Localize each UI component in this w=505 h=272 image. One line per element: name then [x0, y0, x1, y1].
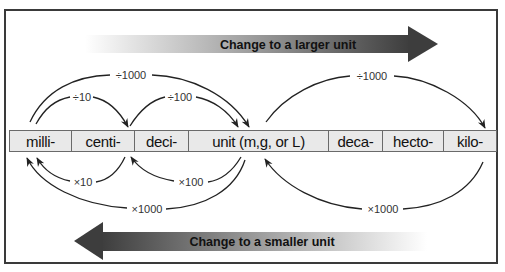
div-100-label: ÷100 — [168, 91, 192, 103]
div-1000-right-curve-a — [266, 76, 350, 122]
unit-cell-base: unit (m,g, or L) — [189, 131, 329, 151]
smaller-unit-label: Change to a smaller unit — [189, 235, 335, 249]
mul-1000-left-label: ×1000 — [132, 203, 163, 215]
mul-10-label: ×10 — [74, 176, 93, 188]
multiplication-curves — [27, 157, 483, 209]
mul-1000-right-curve-a — [403, 162, 483, 209]
unit-cell-deci: deci- — [135, 131, 189, 151]
mul-100-curve-b — [131, 157, 174, 181]
mul-100-label: ×100 — [179, 176, 204, 188]
div-10-curve-b — [93, 97, 128, 127]
mul-10-curve-a — [96, 157, 125, 182]
div-10-label: ÷10 — [73, 91, 91, 103]
arrow-right-icon — [408, 26, 438, 62]
larger-unit-arrow: Change to a larger unit — [85, 26, 438, 62]
div-1000-left-label: ÷1000 — [116, 69, 147, 81]
metric-prefix-bar: milli- centi- deci- unit (m,g, or L) dec… — [9, 130, 497, 152]
unit-cell-kilo: kilo- — [444, 131, 496, 151]
div-1000-right-label: ÷1000 — [357, 70, 388, 82]
unit-cell-centi: centi- — [72, 131, 135, 151]
larger-unit-label: Change to a larger unit — [220, 38, 357, 52]
mul-1000-right-curve-b — [265, 159, 362, 209]
mul-1000-right-label: ×1000 — [368, 203, 399, 215]
smaller-unit-arrow: Change to a smaller unit — [74, 222, 427, 260]
arrow-left-icon — [74, 222, 103, 260]
div-1000-left-curve-b — [152, 75, 249, 127]
unit-cell-milli: milli- — [10, 131, 72, 151]
div-1000-right-curve-b — [394, 76, 485, 128]
division-curves — [30, 75, 485, 128]
unit-cell-deca: deca- — [329, 131, 383, 151]
unit-cell-hecto: hecto- — [383, 131, 444, 151]
div-10-curve-a — [36, 97, 70, 124]
div-100-curve-a — [130, 97, 165, 126]
div-100-curve-b — [196, 97, 238, 127]
